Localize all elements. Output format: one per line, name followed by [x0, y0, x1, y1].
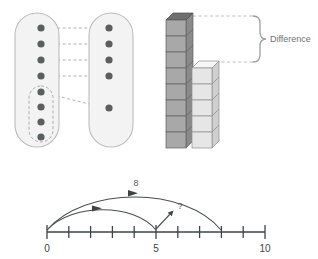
tick-label-10: 10	[259, 243, 271, 254]
number-line-panel: 0 5 10 8 ?	[44, 178, 271, 254]
left-dot-3	[37, 56, 44, 63]
left-dot-8	[37, 133, 44, 140]
right-dot-4	[105, 72, 112, 79]
dot-sets-panel	[15, 13, 133, 147]
tall-block-2	[166, 116, 186, 132]
right-dot-3	[105, 56, 112, 63]
short-tower-sides	[212, 61, 219, 148]
tall-block-3	[166, 100, 186, 116]
unknown-label: ?	[177, 201, 182, 211]
block-towers-panel: Difference	[166, 13, 311, 148]
short-tower-faces	[192, 68, 212, 148]
total-arc-arrowhead	[128, 190, 138, 196]
short-block-4	[192, 84, 212, 100]
tall-block-1	[166, 132, 186, 148]
tall-tower-faces	[166, 20, 186, 148]
tall-block-8	[166, 20, 186, 36]
left-dot-6	[37, 103, 44, 110]
tall-block-5	[166, 68, 186, 84]
right-dot-2	[105, 40, 112, 47]
difference-brace	[253, 16, 266, 62]
left-dot-4	[37, 72, 44, 79]
unknown-pointer-line	[156, 212, 172, 229]
short-block-1	[192, 132, 212, 148]
tall-block-4	[166, 84, 186, 100]
tick-label-5: 5	[153, 243, 159, 254]
short-block-2	[192, 116, 212, 132]
left-dot-5	[37, 88, 44, 95]
short-tower	[192, 61, 219, 148]
right-dot-5	[105, 104, 112, 111]
known-part-arc	[47, 210, 156, 230]
total-arc	[47, 197, 221, 230]
short-block-3	[192, 100, 212, 116]
tall-block-6	[166, 52, 186, 68]
right-oval	[89, 13, 133, 147]
difference-label: Difference	[270, 34, 311, 44]
left-oval	[15, 13, 59, 147]
tall-tower	[166, 13, 193, 148]
short-block-5	[192, 68, 212, 84]
known-part-arrowhead	[92, 205, 102, 211]
figure-canvas: Difference	[0, 0, 318, 259]
figure-root: Difference	[0, 0, 318, 259]
right-dot-1	[105, 24, 112, 31]
brace-leader-lines	[193, 16, 253, 62]
tall-block-7	[166, 36, 186, 52]
total-arc-label: 8	[133, 178, 138, 188]
tick-label-0: 0	[44, 243, 50, 254]
left-dot-2	[37, 40, 44, 47]
left-dot-1	[37, 24, 44, 31]
left-dot-7	[37, 118, 44, 125]
